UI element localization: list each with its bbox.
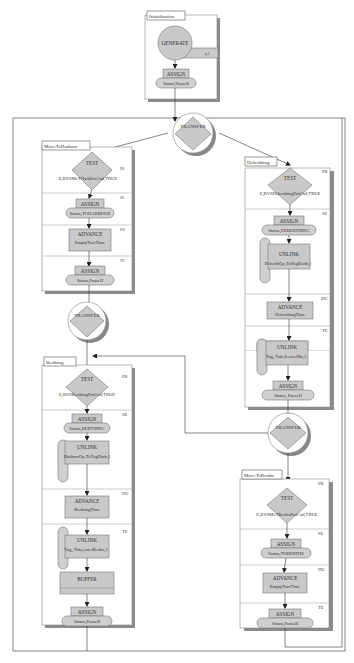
berthing-buffer-label: BUFFER bbox=[77, 576, 97, 582]
berthing-block: Berthing PR SE DU TE TEST E,BVSBerthingP… bbox=[42, 357, 135, 628]
initialisation-block: Initialisation n,1 GENERATE ASSIGN Statu… bbox=[145, 11, 220, 102]
phase-te: TE bbox=[122, 529, 128, 534]
berthing-advance-value: BerthingTime bbox=[74, 507, 100, 512]
transfer-mid-left[interactable]: TRANSFER bbox=[68, 302, 109, 343]
phase-pr: PR bbox=[120, 167, 125, 171]
berthing-advance-label: ADVANCE bbox=[75, 498, 100, 504]
transfer-mid-right-label: TRANSFER bbox=[275, 425, 301, 430]
phase-te: TE bbox=[120, 259, 124, 263]
deberthing-unlink2-label-dup: UNLINK bbox=[277, 344, 297, 350]
phase-du: DU bbox=[120, 228, 126, 232]
initialisation-title: Initialisation bbox=[149, 14, 175, 19]
deberthing-title: Deberthing bbox=[247, 160, 270, 165]
transfer-mid-right[interactable]: TRANSFER bbox=[268, 413, 311, 456]
phase-se: SE bbox=[122, 412, 128, 417]
berthing-test-label: TEST bbox=[81, 376, 94, 382]
move-to-berths-block: MoveToBerths PR SE DU TE TEST E,BVSMvTBe… bbox=[240, 470, 333, 631]
init-assign-label: ASSIGN bbox=[167, 71, 186, 77]
phase-te: TE bbox=[322, 328, 328, 333]
berthing-assign2-label: ASSIGN bbox=[78, 609, 97, 615]
generate-label: GENERATE bbox=[162, 40, 189, 46]
mth-advance-label: ADVANCE bbox=[78, 231, 103, 237]
phase-pr: PR bbox=[318, 481, 325, 486]
mth-test-label: TEST bbox=[86, 160, 99, 166]
phase-du: DU bbox=[321, 296, 328, 301]
deberthing-assign1-label: ASSIGN bbox=[280, 218, 299, 224]
phase-du: DU bbox=[122, 491, 129, 496]
deberthing-advance-label: ADVANCE bbox=[278, 304, 303, 310]
berthing-assign1-label: ASSIGN bbox=[78, 416, 97, 422]
berthing-unlink1-label: UNLINK bbox=[77, 444, 97, 450]
berthing-title: Berthing bbox=[46, 360, 64, 365]
phase-du: DU bbox=[318, 567, 325, 572]
move-to-harbour-block: MoveToHarbour PR SE DU TE TEST E,BVSMvTH… bbox=[42, 141, 135, 294]
phase-se: SE bbox=[318, 531, 324, 536]
move-to-harbour-title: MoveToHarbour bbox=[44, 144, 78, 149]
transfer-top[interactable]: TRANSFER bbox=[173, 113, 216, 156]
mth-assign2-label: ASSIGN bbox=[81, 268, 100, 274]
deberthing-test-label: TEST bbox=[284, 175, 297, 181]
activity-cycle-diagram: Initialisation n,1 GENERATE ASSIGN Statu… bbox=[0, 0, 354, 663]
mth-advance-value: EmptyTravTime bbox=[75, 240, 105, 245]
mtb-advance-value: EmptyTravTime bbox=[270, 584, 300, 589]
phase-se: SE bbox=[120, 196, 124, 200]
phase-pr: PR bbox=[322, 169, 329, 174]
mtb-assign2-label: ASSIGN bbox=[276, 611, 295, 617]
mtb-assign1-label: ASSIGN bbox=[277, 541, 296, 547]
deberthing-advance-value: DeberthingTime bbox=[275, 312, 305, 317]
move-to-berths-title: MoveToBerths bbox=[244, 473, 274, 478]
transfer-top-label: TRANSFER bbox=[180, 124, 206, 129]
transfer-mid-left-label: TRANSFER bbox=[74, 313, 100, 318]
phase-pr: PR bbox=[122, 374, 129, 379]
mth-assign1-label: ASSIGN bbox=[81, 201, 100, 207]
mtb-advance-label: ADVANCE bbox=[273, 575, 298, 581]
mtb-test-label: TEST bbox=[281, 495, 294, 501]
phase-te: TE bbox=[318, 605, 324, 610]
phase-se: SE bbox=[322, 211, 328, 216]
berthing-unlink2-label: UNLINK bbox=[77, 537, 97, 543]
deberthing-unlink1-label: UNLINK bbox=[279, 251, 299, 257]
deberthing-assign2-label: ASSIGN bbox=[279, 383, 298, 389]
